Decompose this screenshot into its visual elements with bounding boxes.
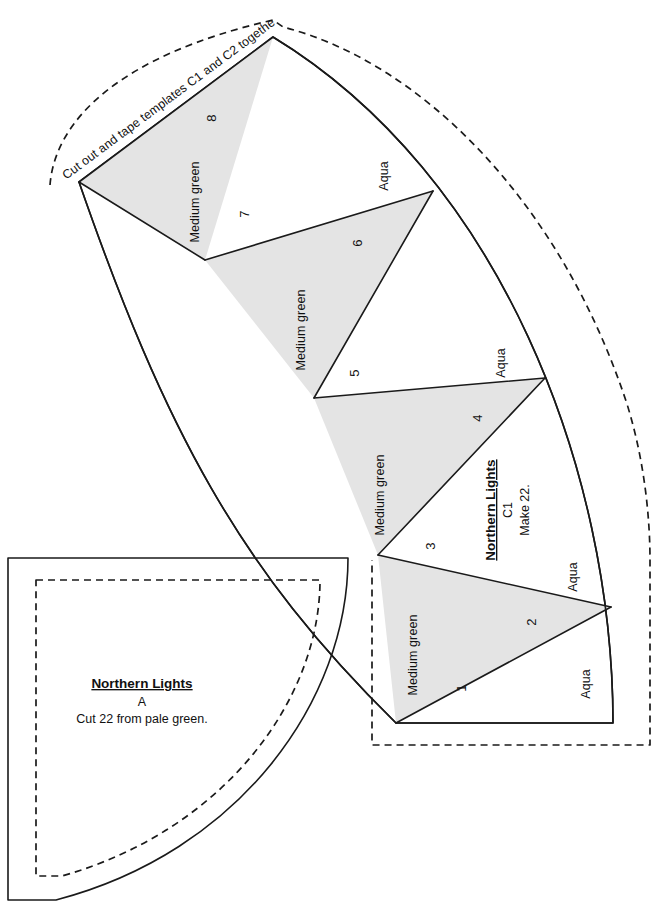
c1-piece-number-2: 2: [524, 618, 539, 625]
c1-piece-number-1: 1: [454, 684, 469, 691]
c1-code: C1: [501, 502, 515, 518]
c1-fabric-label-aqua-1: Aqua: [579, 669, 593, 699]
a-cut-outline: [8, 558, 348, 900]
c1-id-block: Northern Lights C1 Make 22.: [483, 459, 532, 560]
template-sheet: 1 2 3 4 5 6 7 8 Medium green Medium gree…: [0, 0, 661, 908]
c1-fabric-label-medium-green-1: Medium green: [406, 614, 420, 695]
a-cut-note: Cut 22 from pale green.: [76, 712, 207, 726]
template-a-group: Northern Lights A Cut 22 from pale green…: [8, 558, 348, 900]
c1-title: Northern Lights: [483, 459, 498, 560]
c1-fabric-label-medium-green-2: Medium green: [373, 454, 387, 535]
c1-piece-number-5: 5: [347, 369, 362, 376]
c1-fabric-label-aqua-4: Aqua: [377, 161, 391, 191]
a-title: Northern Lights: [91, 676, 192, 691]
c1-piece-6-fill: [205, 191, 433, 398]
c1-piece-number-4: 4: [470, 414, 485, 421]
c1-quantity-note: Make 22.: [518, 484, 532, 535]
c1-fabric-label-aqua-3: Aqua: [494, 348, 508, 378]
pattern-artwork: 1 2 3 4 5 6 7 8 Medium green Medium gree…: [0, 0, 661, 908]
c1-fabric-label-medium-green-4: Medium green: [188, 161, 202, 242]
c1-piece-number-6: 6: [350, 239, 365, 246]
c1-fabric-label-aqua-2: Aqua: [566, 562, 580, 592]
a-code: A: [138, 695, 147, 709]
c1-piece-4-fill: [314, 378, 545, 555]
c1-piece-number-3: 3: [423, 542, 438, 549]
template-c1-group: 1 2 3 4 5 6 7 8 Medium green Medium gree…: [0, 0, 650, 745]
c1-piece-number-8: 8: [204, 114, 219, 121]
c1-piece-number-7: 7: [237, 210, 252, 217]
a-seam-line: [36, 580, 320, 876]
c1-fabric-label-medium-green-3: Medium green: [294, 289, 308, 370]
